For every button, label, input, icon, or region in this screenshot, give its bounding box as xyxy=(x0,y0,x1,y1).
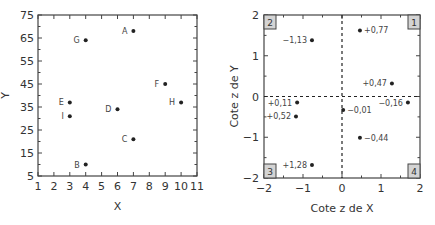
point-label: G xyxy=(73,36,79,45)
data-point xyxy=(310,163,314,167)
x-tick-label: 3 xyxy=(66,180,73,193)
point-label: −0,44 xyxy=(364,134,389,143)
point-label: +0,47 xyxy=(362,79,387,88)
point-label: −0,16 xyxy=(378,99,403,108)
data-point xyxy=(131,137,135,141)
point-label: F xyxy=(155,80,160,89)
point-label: I xyxy=(61,112,63,121)
x-tick-label: 6 xyxy=(114,180,121,193)
quadrant-label: 1 xyxy=(411,18,417,28)
data-point xyxy=(341,108,345,112)
point-label: B xyxy=(74,161,80,170)
right-zscore-chart: −2−2−1−10011221234Cote z de XCote z de Y… xyxy=(228,9,424,215)
y-tick-label: 2 xyxy=(252,9,259,22)
x-tick-label: 2 xyxy=(50,180,57,193)
data-point xyxy=(179,100,183,104)
data-point xyxy=(294,114,298,118)
y-axis-title: Cote z de Y xyxy=(228,65,241,128)
point-label: −1,13 xyxy=(282,36,307,45)
x-tick-label: 8 xyxy=(146,180,153,193)
x-tick-label: 1 xyxy=(35,180,42,193)
y-tick-label: 0 xyxy=(252,91,259,104)
data-point xyxy=(295,101,299,105)
y-tick-label: −1 xyxy=(243,131,259,144)
y-tick-label: 65 xyxy=(20,32,34,45)
data-point xyxy=(390,81,394,85)
point-label: +0,77 xyxy=(364,26,389,35)
data-point xyxy=(116,107,120,111)
y-tick-label: 55 xyxy=(20,55,34,68)
x-tick-label: 1 xyxy=(378,182,385,195)
data-point xyxy=(163,82,167,86)
x-tick-label: 4 xyxy=(82,180,89,193)
point-label: +1,28 xyxy=(282,161,307,170)
data-point xyxy=(358,136,362,140)
x-tick-label: 5 xyxy=(98,180,105,193)
x-tick-label: 0 xyxy=(339,182,346,195)
x-tick-label: 7 xyxy=(130,180,137,193)
y-axis-title: Y xyxy=(0,92,12,100)
x-axis-title: Cote z de X xyxy=(310,202,374,215)
point-label: H xyxy=(169,98,175,107)
x-tick-label: 10 xyxy=(174,180,188,193)
point-label: E xyxy=(59,98,64,107)
x-tick-label: −1 xyxy=(295,182,311,195)
point-label: −0,01 xyxy=(347,106,372,115)
data-point xyxy=(68,114,72,118)
data-point xyxy=(68,100,72,104)
point-label: A xyxy=(122,27,128,36)
quadrant-label: 4 xyxy=(411,167,417,177)
left-scatter-chart: 1234567891011515253545556575XYAGFHEDICB xyxy=(0,9,204,213)
data-point xyxy=(84,163,88,167)
point-label: +0,11 xyxy=(268,99,293,108)
x-tick-label: 11 xyxy=(190,180,204,193)
y-tick-label: 1 xyxy=(252,50,259,63)
y-tick-label: 45 xyxy=(20,78,34,91)
data-point xyxy=(131,29,135,33)
y-tick-label: 75 xyxy=(20,9,34,22)
y-tick-label: 35 xyxy=(20,101,34,114)
point-label: +0,52 xyxy=(266,112,291,121)
x-tick-label: 9 xyxy=(162,180,169,193)
x-axis-title: X xyxy=(114,200,122,213)
quadrant-label: 3 xyxy=(267,167,273,177)
data-point xyxy=(310,38,314,42)
y-tick-label: 15 xyxy=(20,147,34,160)
point-label: C xyxy=(122,135,128,144)
quadrant-label: 2 xyxy=(267,18,273,28)
y-tick-label: −2 xyxy=(243,172,259,185)
data-point xyxy=(406,101,410,105)
plot-frame xyxy=(38,15,197,176)
chart-canvas: 1234567891011515253545556575XYAGFHEDICB … xyxy=(0,0,435,225)
data-point xyxy=(358,28,362,32)
data-point xyxy=(84,38,88,42)
y-tick-label: 5 xyxy=(27,170,34,183)
x-tick-label: 2 xyxy=(417,182,424,195)
y-tick-label: 25 xyxy=(20,124,34,137)
point-label: D xyxy=(105,105,111,114)
